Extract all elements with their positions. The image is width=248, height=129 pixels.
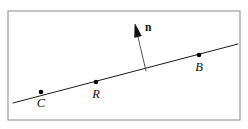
- point-label-c: C: [37, 96, 46, 110]
- point-marker-r: [94, 80, 99, 85]
- point-marker-b: [197, 53, 202, 58]
- geometry-line: [13, 44, 238, 103]
- geometry-figure: C R B n: [0, 0, 248, 129]
- point-label-r: R: [91, 87, 100, 101]
- normal-vector-arrowhead: [135, 24, 142, 37]
- normal-vector-label: n: [145, 21, 152, 33]
- figure-canvas: C R B n: [0, 0, 248, 129]
- point-label-b: B: [195, 60, 203, 74]
- normal-vector-shaft: [138, 35, 146, 71]
- point-marker-c: [39, 90, 44, 95]
